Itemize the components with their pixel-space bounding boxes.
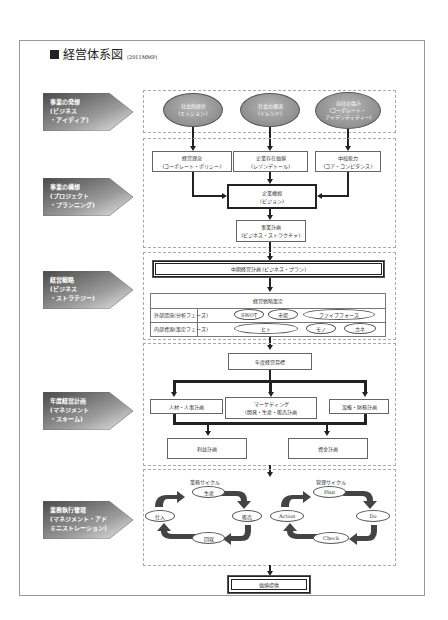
connector [173,422,367,425]
node-purchase: 仕入 [145,510,175,522]
box-business-plan: 事業計画 (ビジネス・ストラクチャ) [236,220,306,242]
box-text: 経営理念 [182,154,202,162]
ellipse-text: 社会の潮流 [258,103,283,110]
row-label: 内部資源(策定フェーズ) [154,322,208,336]
ellipse-text: (コーポレート・ [330,107,367,114]
box-text: (レゾンデトール) [251,162,290,170]
title-main: 経営体系図 [63,48,123,62]
tab-label: 年度経営計画 (マネジメント ・スキーム) [50,396,89,423]
box-text: 中期経営計画 (ビジネス・プラン) [231,265,307,273]
tab-label: 経営戦略 (ビジネス ・ストラテジー) [50,275,95,302]
ellipse-mission: 社会的使命 (ミッション) [163,93,223,127]
arrow-down-icon [171,392,177,397]
tab-management-administration: 業務執行管理 (マネジメント・アド ミニストレーション) [43,501,133,539]
box-text: 企業構想 [262,189,282,197]
node-collection: 回収 [192,532,225,544]
oval-swot: SWOT [234,309,264,320]
box-text: 事業計画 [261,223,281,231]
box-text: 価値提供 [259,581,279,589]
arrow-left-icon [317,193,322,199]
strategy-title: 経営戦略策定 [151,294,385,309]
node-production: 生産 [192,486,225,498]
ellipse-trend: 社会の潮流 (トレンド) [240,93,300,127]
arrow-down-icon [324,431,330,436]
box-text: マーケティング [254,400,289,408]
box-hr-plan: 人材・人事計画 [150,399,223,414]
row-label: 外部環境(分析フェーズ) [154,308,208,322]
connector [347,172,349,196]
box-raison-detre: 企業存在価値 (レゾンデトール) [233,151,308,172]
oval-people: ヒト [234,323,298,334]
arrow-down-icon [267,287,273,292]
tab-label: 事業の発想 (ビジネス ・アイディア) [50,97,89,124]
oval-money: カネ [344,323,376,334]
node-plan: Plan [313,486,346,498]
connector [192,195,222,197]
box-equipment-finance-plan: 設備・財務計画 [329,399,389,414]
box-fund-plan: 資金計画 [288,438,368,459]
box-text: (コーポレート・ポリシー) [163,162,222,170]
box-text: (コア・コンピタンス) [324,162,373,170]
box-text: 年度経営目標 [255,358,285,366]
square-bullet-icon [50,50,59,59]
tab-project-planning: 事業の構想 (プロジェクト ・プランニング) [43,178,133,216]
page-title: 経営体系図(2011MMP) [50,45,157,62]
box-text: 設備・財務計画 [342,403,377,411]
title-sub: (2011MMP) [127,54,157,60]
box-core-competence: 中核能力 (コア・コンピタンス) [315,151,381,172]
oval-market: 市場 [268,309,298,320]
node-check: Check [313,532,349,544]
box-text: 人材・人事計画 [169,403,204,411]
box-text: 利益計画 [197,445,217,453]
box-value-delivery: 価値提供 [228,576,310,593]
ellipse-text: 社会的使命 [181,103,206,110]
arrow-down-icon [362,392,368,397]
box-text: 資金計画 [318,445,338,453]
tab-label: 業務執行管理 (マネジメント・アド ミニストレーション) [50,505,107,532]
connector [192,172,194,196]
oval-five-forces: ファイブフォース [303,309,375,320]
ellipse-text: 自社の強み [336,100,361,107]
node-sales: 販売 [232,510,262,522]
box-marketing-plan: マーケティング (開発・生産・販売計画 [225,397,317,419]
tab-business-strategy: 経営戦略 (ビジネス ・ストラテジー) [43,271,133,309]
ellipse-text: (トレンド) [258,110,282,117]
box-text: (ビジネス・ストラクチャ) [242,231,301,239]
box-mid-term-plan: 中期経営計画 (ビジネス・プラン) [153,261,384,277]
ellipse-corporate-identity: 自社の強み (コーポレート・ アイデンティティー) [315,92,381,129]
tab-business-idea: 事業の発想 (ビジネス ・アイディア) [43,93,133,131]
box-profit-plan: 利益計画 [167,438,247,459]
oval-goods: モノ [306,323,336,334]
box-annual-goal: 年度経営目標 [228,353,312,370]
node-action: Action [270,510,304,522]
box-text: 企業存在価値 [256,154,286,162]
box-corporate-policy: 経営理念 (コーポレート・ポリシー) [152,151,232,172]
box-vision: 企業構想 (ビジョン) [227,184,317,209]
tab-management-scheme: 年度経営計画 (マネジメント ・スキーム) [43,392,133,430]
ellipse-text: アイデンティティー) [325,114,372,121]
ellipse-text: (ミッション) [179,110,208,117]
box-text: 中核能力 [338,154,358,162]
arrow-down-icon [205,431,211,436]
node-do: Do [356,510,390,522]
connector [322,195,349,197]
box-text: (ビジョン) [260,197,284,205]
box-text: (開発・生産・販売計画 [245,408,297,416]
tab-label: 事業の構想 (プロジェクト ・プランニング) [50,182,95,209]
